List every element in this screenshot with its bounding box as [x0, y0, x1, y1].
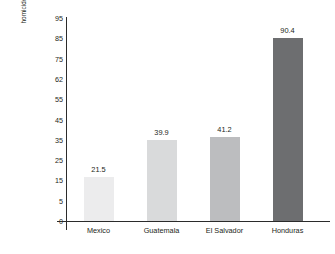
y-axis-tick-label: 15 — [41, 176, 63, 185]
y-axis-tick-label: 75 — [41, 54, 63, 63]
x-axis-category-label: Honduras — [243, 226, 333, 235]
bar[interactable] — [147, 140, 177, 221]
y-axis-tick-label: 85 — [41, 34, 63, 43]
y-axis-tick-label: 25 — [41, 156, 63, 165]
y-axis-tick-label: 5 — [41, 196, 63, 205]
bar-value-label: 41.2 — [217, 125, 231, 134]
bar-group: 21.5 — [67, 18, 130, 221]
bar[interactable] — [210, 137, 240, 221]
bar[interactable] — [273, 38, 303, 222]
y-axis-title: homicides per 100,000 inhabitants — [17, 0, 31, 54]
bar-value-label: 21.5 — [91, 165, 105, 174]
plot-area: 21.539.941.290.4 — [67, 18, 319, 221]
y-axis-tick-label: 35 — [41, 135, 63, 144]
bar-value-label: 90.4 — [280, 26, 294, 35]
y-axis-tick-labels: 95857562554535251550 — [41, 18, 63, 221]
bar-group: 90.4 — [256, 18, 319, 221]
y-axis-tick-label: 62 — [41, 74, 63, 83]
bar-value-label: 39.9 — [154, 128, 168, 137]
bar-chart: homicides per 100,000 inhabitants 958575… — [0, 0, 335, 254]
bar-group: 39.9 — [130, 18, 193, 221]
y-axis-tick-label: 55 — [41, 95, 63, 104]
bar[interactable] — [84, 177, 114, 221]
y-axis-tick-label: 45 — [41, 115, 63, 124]
y-axis-tick-label: 95 — [41, 14, 63, 23]
bar-group: 41.2 — [193, 18, 256, 221]
